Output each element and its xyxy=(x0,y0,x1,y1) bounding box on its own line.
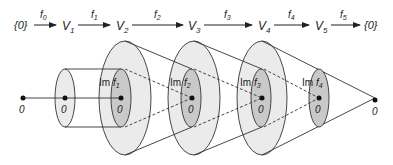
zero-label: 0 xyxy=(188,104,194,115)
map-label-f0: f0 xyxy=(40,9,47,21)
map-label-f4: f4 xyxy=(288,9,295,21)
node-v2: V2 xyxy=(116,19,129,35)
map-label-f3: f3 xyxy=(224,9,231,21)
zero-dot xyxy=(63,96,68,101)
node-v3: V3 xyxy=(188,19,201,35)
zero-dot xyxy=(21,96,26,101)
zero-label: 0 xyxy=(19,104,25,115)
node-zero-right: {0} xyxy=(364,19,378,31)
zero-label: 0 xyxy=(258,104,264,115)
zero-dot xyxy=(260,96,265,101)
zero-label: 0 xyxy=(372,106,378,117)
node-zero-left: {0} xyxy=(14,19,28,31)
sequence-row: {0} f0 V1 f1 V2 f2 V3 f3 V4 f4 V5 f5 {0} xyxy=(14,9,378,35)
node-v4: V4 xyxy=(258,19,271,35)
map-label-f1: f1 xyxy=(91,9,98,21)
node-v5: V5 xyxy=(315,19,328,35)
map-label-f5: f5 xyxy=(340,9,347,21)
zero-label: 0 xyxy=(315,104,321,115)
zero-dot xyxy=(373,98,378,103)
zero-label: 0 xyxy=(117,104,123,115)
zero-dot xyxy=(190,96,195,101)
zero-label: 0 xyxy=(61,104,67,115)
exact-sequence-diagram: {0} f0 V1 f1 V2 f2 V3 f3 V4 f4 V5 f5 {0} xyxy=(0,0,393,165)
zero-dot xyxy=(119,96,124,101)
node-v1: V1 xyxy=(62,19,74,35)
zero-dot xyxy=(317,96,322,101)
map-label-f2: f2 xyxy=(154,9,161,21)
spaces-diagram xyxy=(23,41,375,155)
